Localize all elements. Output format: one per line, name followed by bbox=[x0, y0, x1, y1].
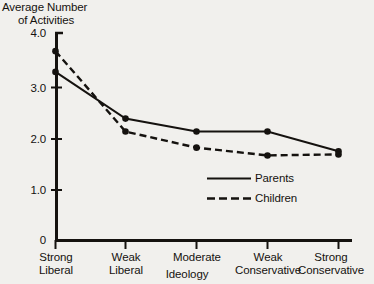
data-point bbox=[193, 128, 200, 135]
legend-swatches bbox=[207, 179, 251, 199]
data-point bbox=[193, 144, 200, 151]
series-layer bbox=[52, 48, 342, 159]
chart-figure: Average Number of Activities bbox=[0, 0, 374, 284]
y-tick-label-2: 2.0 bbox=[16, 133, 46, 145]
x-tick-label-strong-conservative-line-1: Strong bbox=[288, 251, 374, 264]
data-point bbox=[122, 128, 129, 135]
axes bbox=[51, 32, 352, 249]
series-line-parents bbox=[56, 72, 339, 151]
plot-area bbox=[0, 0, 374, 284]
legend-label-parents: Parents bbox=[255, 172, 294, 185]
y-tick-label-0: 0 bbox=[16, 234, 46, 246]
data-point bbox=[335, 151, 342, 158]
data-point bbox=[264, 128, 271, 135]
y-tick-label-1: 1.0 bbox=[16, 184, 46, 196]
y-tick-label-4: 4.0 bbox=[16, 27, 46, 39]
data-point bbox=[122, 115, 129, 122]
data-point bbox=[52, 48, 59, 55]
x-axis-title: Ideology bbox=[0, 268, 374, 281]
data-point bbox=[264, 152, 271, 159]
data-point bbox=[52, 69, 59, 76]
y-tick-label-3: 3.0 bbox=[16, 82, 46, 94]
legend-label-children: Children bbox=[255, 192, 297, 205]
